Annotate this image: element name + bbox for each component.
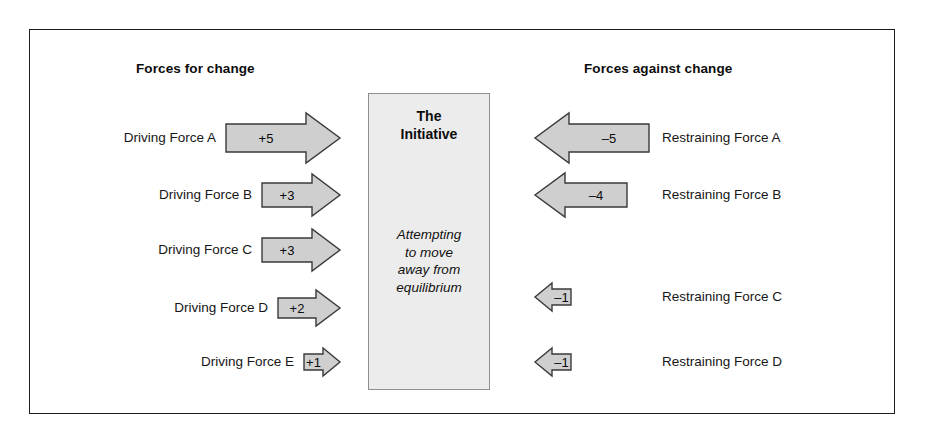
restraining-force-arrow: –4 bbox=[535, 173, 627, 217]
driving-force-label: Driving Force D bbox=[62, 301, 268, 315]
restraining-force-arrow: –5 bbox=[535, 113, 649, 163]
initiative-box: The Initiative Attempting to move away f… bbox=[368, 93, 490, 390]
driving-force-label: Driving Force C bbox=[62, 243, 252, 257]
restraining-force-label: Restraining Force C bbox=[662, 290, 782, 304]
heading-forces-for-change: Forces for change bbox=[136, 61, 255, 76]
driving-force-label: Driving Force A bbox=[62, 131, 216, 145]
restraining-force-label: Restraining Force B bbox=[662, 188, 781, 202]
initiative-sub-line3: away from bbox=[398, 262, 460, 277]
restraining-force-arrow: –1 bbox=[535, 283, 571, 311]
driving-force-label: Driving Force E bbox=[62, 355, 294, 369]
driving-force-arrow: +5 bbox=[226, 113, 340, 163]
initiative-title: The Initiative bbox=[369, 108, 489, 143]
restraining-force-label: Restraining Force A bbox=[662, 131, 781, 145]
initiative-sub-line2: to move bbox=[405, 245, 453, 260]
driving-force-arrow: +2 bbox=[278, 290, 340, 326]
driving-force-arrow: +3 bbox=[262, 229, 340, 271]
initiative-subtitle: Attempting to move away from equilibrium bbox=[369, 226, 489, 296]
initiative-sub-line1: Attempting bbox=[397, 227, 462, 242]
restraining-force-arrow: –1 bbox=[535, 348, 571, 376]
restraining-force-label: Restraining Force D bbox=[662, 355, 782, 369]
initiative-title-line1: The bbox=[417, 108, 442, 124]
driving-force-label: Driving Force B bbox=[62, 188, 252, 202]
heading-forces-against-change: Forces against change bbox=[584, 61, 732, 76]
initiative-sub-line4: equilibrium bbox=[396, 280, 461, 295]
driving-force-arrow: +1 bbox=[304, 348, 340, 376]
driving-force-arrow: +3 bbox=[262, 174, 340, 216]
force-field-diagram: Forces for change Forces against change … bbox=[0, 0, 925, 440]
initiative-title-line2: Initiative bbox=[401, 126, 458, 142]
